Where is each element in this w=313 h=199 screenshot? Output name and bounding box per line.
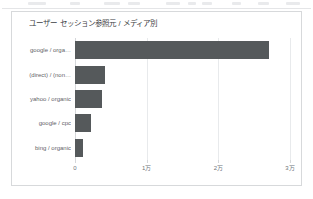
plot-area xyxy=(75,38,290,160)
y-axis-label: google / orga… xyxy=(12,46,71,54)
bar[interactable] xyxy=(75,139,83,157)
y-axis-label: bing / organic xyxy=(12,144,71,152)
x-axis-tick-label: 3万 xyxy=(285,164,294,172)
y-axis-label: (direct) / (non… xyxy=(12,71,71,79)
x-axis-tick-mark xyxy=(147,160,148,163)
x-axis-tick-label: 1万 xyxy=(142,164,151,172)
bar-series xyxy=(75,38,290,160)
chart-title: ユーザー セッション参照元 / メディア別 xyxy=(29,18,157,29)
bar[interactable] xyxy=(75,66,105,84)
x-axis-tick-label: 2万 xyxy=(214,164,223,172)
y-axis-label: google / cpc xyxy=(12,119,71,127)
bar[interactable] xyxy=(75,114,91,132)
bar-row[interactable] xyxy=(75,38,290,62)
bar-row[interactable] xyxy=(75,62,290,86)
chart-card: ユーザー セッション参照元 / メディア別 google / orga…(dir… xyxy=(11,11,302,186)
y-axis-label: yahoo / organic xyxy=(12,95,71,103)
x-axis-tick-mark xyxy=(290,160,291,163)
bar-row[interactable] xyxy=(75,111,290,135)
bar-row[interactable] xyxy=(75,87,290,111)
gridline-3 xyxy=(290,38,291,160)
y-axis-category-labels: google / orga…(direct) / (non…yahoo / or… xyxy=(12,38,71,160)
scan-artifact-band xyxy=(0,0,313,9)
bar-row[interactable] xyxy=(75,136,290,160)
x-axis-tick-label: 0 xyxy=(73,164,76,172)
bar[interactable] xyxy=(75,90,102,108)
x-axis: 01万2万3万 xyxy=(75,160,290,180)
x-axis-tick-mark xyxy=(75,160,76,163)
x-axis-tick-mark xyxy=(218,160,219,163)
bar[interactable] xyxy=(75,41,269,59)
